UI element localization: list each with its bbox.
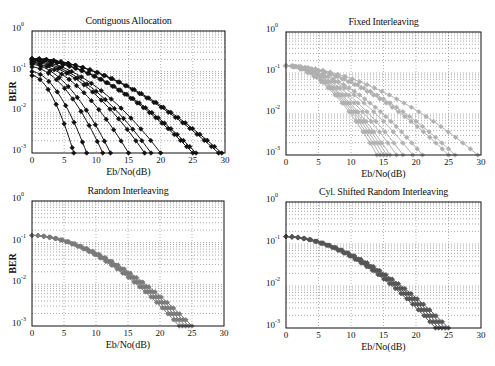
x-tick-label: 5 [314,157,324,167]
x-tick-label: 10 [346,330,356,340]
y-tick-label: 100 [12,193,24,203]
y-tick-label: 10-3 [12,145,26,155]
y-tick-label: 100 [12,23,24,33]
data-series [30,56,224,155]
chart-title: Cyl. Shifted Random Interleaving [286,186,481,197]
x-tick-label: 20 [156,155,166,165]
x-tick-label: 30 [219,328,229,338]
y-tick-base: 10 [266,320,275,330]
y-tick-exponent: 0 [275,192,278,198]
y-tick-base: 10 [12,235,21,245]
y-tick-label: 10-2 [266,106,280,116]
y-tick-base: 10 [266,24,275,34]
x-tick-label: 20 [411,330,421,340]
x-tick-label: 10 [346,157,356,167]
y-tick-exponent: -1 [21,233,26,239]
y-tick-base: 10 [12,193,21,203]
y-axis-label: BER [7,253,18,274]
y-tick-label: 10-1 [266,236,280,246]
y-tick-exponent: -3 [21,316,26,322]
x-tick-label: 5 [59,155,69,165]
y-tick-exponent: -2 [275,276,280,282]
y-tick-label: 100 [266,194,278,204]
y-tick-label: 10-3 [12,318,26,328]
x-tick-label: 25 [188,155,198,165]
chart-title: Fixed Interleaving [286,16,481,27]
y-tick-exponent: 0 [21,191,24,197]
y-tick-base: 10 [12,318,21,328]
x-axis-label: Eb/No(dB) [32,339,224,350]
y-tick-label: 10-1 [12,64,26,74]
y-tick-base: 10 [266,147,275,157]
x-tick-label: 0 [27,328,37,338]
y-tick-exponent: -1 [21,62,26,68]
x-tick-label: 30 [476,157,486,167]
y-tick-label: 100 [266,24,278,34]
x-tick-label: 25 [187,328,197,338]
x-axis-label: Eb/No(dB) [286,168,481,179]
y-tick-base: 10 [12,145,21,155]
y-tick-base: 10 [266,236,275,246]
y-tick-exponent: -2 [275,104,280,110]
y-tick-exponent: -1 [275,63,280,69]
x-tick-label: 15 [123,328,133,338]
y-tick-label: 10-2 [12,104,26,114]
y-tick-label: 10-2 [12,276,26,286]
y-tick-label: 10-1 [12,235,26,245]
y-tick-exponent: -1 [275,234,280,240]
plot-area [286,32,481,155]
y-tick-exponent: 0 [275,22,278,28]
y-tick-label: 10-3 [266,147,280,157]
y-tick-base: 10 [266,278,275,288]
x-tick-label: 15 [124,155,134,165]
grid [286,202,481,328]
chart-title: Contiguous Allocation [32,15,225,26]
data-series [284,234,451,330]
x-tick-label: 30 [220,155,230,165]
x-tick-label: 5 [59,328,69,338]
y-tick-label: 10-2 [266,278,280,288]
y-tick-exponent: -3 [275,318,280,324]
y-tick-base: 10 [12,276,21,286]
x-tick-label: 20 [411,157,421,167]
x-tick-label: 25 [444,157,454,167]
y-tick-exponent: -3 [21,143,26,149]
x-axis-label: Eb/No(dB) [32,166,225,177]
plot-area [32,31,225,153]
x-tick-label: 5 [314,330,324,340]
y-tick-exponent: 0 [21,21,24,27]
data-series [30,233,195,328]
y-tick-label: 10-3 [266,320,280,330]
x-tick-label: 30 [476,330,486,340]
x-tick-label: 25 [444,330,454,340]
x-tick-label: 0 [281,330,291,340]
data-series [284,63,480,157]
y-tick-base: 10 [12,64,21,74]
y-tick-base: 10 [266,106,275,116]
y-tick-label: 10-1 [266,65,280,75]
x-tick-label: 15 [379,157,389,167]
y-tick-exponent: -3 [275,145,280,151]
y-tick-base: 10 [12,23,21,33]
x-tick-label: 10 [91,328,101,338]
y-axis-label: BER [7,81,18,102]
x-axis-label: Eb/No(dB) [286,341,481,352]
y-tick-base: 10 [12,104,21,114]
plot-area [32,201,224,326]
y-tick-base: 10 [266,65,275,75]
x-tick-label: 20 [155,328,165,338]
chart-title: Random Interleaving [32,185,224,196]
y-tick-base: 10 [266,194,275,204]
plot-area [286,202,481,328]
x-tick-label: 15 [379,330,389,340]
x-tick-label: 0 [281,157,291,167]
x-tick-label: 0 [27,155,37,165]
y-tick-exponent: -2 [21,102,26,108]
x-tick-label: 10 [91,155,101,165]
grid [32,201,224,326]
y-tick-exponent: -2 [21,274,26,280]
